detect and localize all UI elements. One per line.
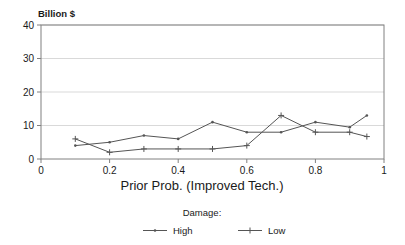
data-point-high <box>143 134 146 137</box>
x-axis-title: Prior Prob. (Improved Tech.) <box>120 178 283 193</box>
legend-label-low: Low <box>268 225 286 236</box>
legend-label-high: High <box>173 225 193 236</box>
x-tick-label: 0.2 <box>103 165 117 176</box>
x-tick-label: 0.6 <box>240 165 254 176</box>
y-tick-label: 10 <box>23 120 35 131</box>
legend-title: Damage: <box>183 207 222 218</box>
data-point-high <box>211 121 214 124</box>
data-point-high <box>246 131 249 134</box>
y-tick-label: 40 <box>23 20 35 31</box>
y-tick-label: 20 <box>23 87 35 98</box>
data-point-high <box>366 114 369 117</box>
x-tick-label: 1 <box>381 165 387 176</box>
data-point-high <box>348 126 351 129</box>
line-chart: 010203040 00.20.40.60.81 Billion $ Prior… <box>0 0 405 245</box>
x-tick-label: 0.8 <box>308 165 322 176</box>
legend-marker-dot <box>154 229 157 232</box>
x-tick-label: 0.4 <box>171 165 185 176</box>
data-point-high <box>108 141 111 144</box>
data-point-high <box>314 121 317 124</box>
data-point-high <box>177 138 180 141</box>
y-axis-unit-label: Billion $ <box>38 8 76 19</box>
x-tick-label: 0 <box>38 165 44 176</box>
y-tick-label: 30 <box>23 53 35 64</box>
chart-container: 010203040 00.20.40.60.81 Billion $ Prior… <box>0 0 405 245</box>
y-tick-label: 0 <box>28 154 34 165</box>
data-point-high <box>280 131 283 134</box>
data-point-high <box>74 144 77 147</box>
